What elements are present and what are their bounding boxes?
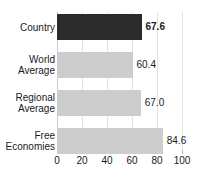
category-label: Country: [0, 22, 55, 33]
category-label: WorldAverage: [0, 54, 55, 76]
bar-value-label: 67.6: [146, 21, 165, 32]
category-label: FreeEconomies: [0, 130, 55, 152]
bar-value-label: 60.4: [137, 59, 156, 70]
bar-row: WorldAverage60.4: [0, 52, 202, 78]
bar-row: Country67.6: [0, 14, 202, 40]
category-label-line1: Regional: [16, 92, 55, 103]
bar-row: RegionalAverage67.0: [0, 90, 202, 116]
bar-world-average: [57, 52, 133, 78]
category-label-line1: Free: [34, 130, 55, 141]
bar-value-label: 84.6: [167, 135, 186, 146]
bar-free-economies: [57, 128, 163, 154]
bar-chart: 020406080100 Country67.6WorldAverage60.4…: [0, 0, 202, 182]
category-label-line1: World: [29, 54, 55, 65]
category-label-line2: Economies: [0, 141, 55, 152]
category-label: RegionalAverage: [0, 92, 55, 114]
bar-row: FreeEconomies84.6: [0, 128, 202, 154]
bar-value-label: 67.0: [145, 97, 164, 108]
bar-regional-average: [57, 90, 141, 116]
category-label-line2: Average: [0, 65, 55, 76]
bar-country: [57, 14, 142, 40]
category-label-line2: Average: [0, 103, 55, 114]
x-axis-tick-label: 100: [167, 155, 197, 166]
